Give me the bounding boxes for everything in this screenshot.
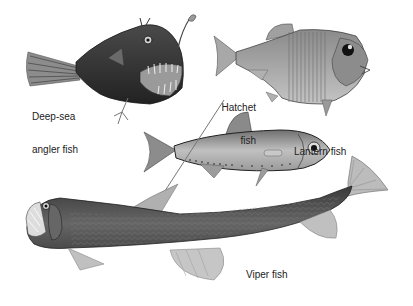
label-lantern-line1: Lantern fish — [294, 146, 346, 157]
label-angler-line2: angler fish — [32, 144, 78, 155]
label-angler-line1: Deep-sea — [32, 111, 78, 122]
label-hatchet-line2: fish — [216, 135, 256, 146]
label-lantern-fish: Lantern fish — [294, 124, 346, 179]
label-angler-fish: Deep-sea angler fish — [32, 89, 78, 177]
fish-illustration: Deep-sea angler fish Hatchet fish Lanter… — [0, 0, 413, 306]
label-hatchet-fish: Hatchet fish — [216, 80, 256, 168]
label-viper-fish: Viper fish — [246, 247, 288, 302]
label-viper-line1: Viper fish — [246, 269, 288, 280]
label-hatchet-line1: Hatchet — [216, 102, 256, 113]
